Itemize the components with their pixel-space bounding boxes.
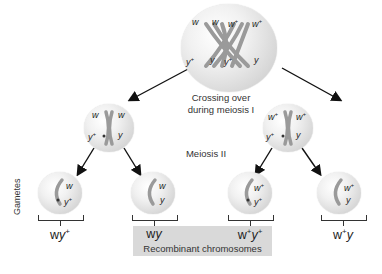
gamete-2-bottom: y <box>160 196 165 205</box>
gamete-3-top: w+ <box>254 182 264 193</box>
recombinant-label: Recombinant chromosomes <box>133 243 272 255</box>
gamete-4-top: w+ <box>344 182 354 193</box>
gamete-4-bracket <box>321 215 367 221</box>
gamete-2-genotype: wy <box>124 227 184 241</box>
gamete-4-bracket-stem <box>343 220 344 226</box>
gamete-4-bottom: y <box>346 196 351 205</box>
gamete-2-bracket <box>132 215 178 221</box>
gamete-3-bracket-stem <box>250 220 251 226</box>
gamete-3-genotype: w+y+ <box>220 227 280 242</box>
gamete-3-bottom: y+ <box>254 196 262 207</box>
gamete-2-bracket-stem <box>154 220 155 226</box>
gamete-1-bracket <box>38 215 84 221</box>
gamete-2-top: w <box>159 182 166 191</box>
gamete-1-bottom: y+ <box>64 196 72 207</box>
gamete-1-bracket-stem <box>60 220 61 226</box>
gamete-4-genotype: w+y <box>313 227 373 242</box>
gamete-1-top: w <box>66 182 73 191</box>
gamete-1-genotype: wy+ <box>30 227 90 242</box>
gamete-3-bracket <box>228 215 274 221</box>
